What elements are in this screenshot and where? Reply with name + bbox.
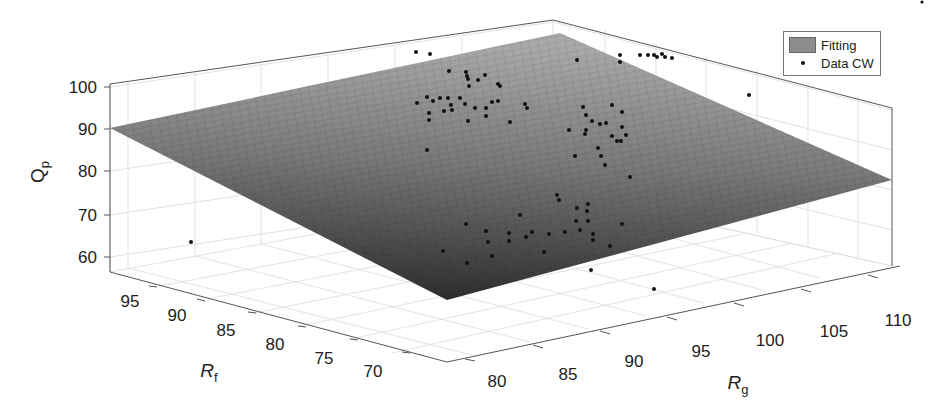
rg-tick-110: 110 bbox=[884, 311, 911, 330]
legend: Fitting Data CW bbox=[783, 31, 881, 76]
rf-tick-95: 95 bbox=[121, 292, 140, 311]
rf-tick-90: 90 bbox=[168, 306, 187, 325]
svg-text:Qp: Qp bbox=[27, 161, 52, 183]
z-tick-60: 60 bbox=[78, 248, 97, 267]
rg-tick-85: 85 bbox=[559, 365, 578, 384]
z-tick-90: 90 bbox=[78, 120, 97, 139]
surface-swatch-icon bbox=[789, 37, 816, 53]
legend-item-fitting: Fitting bbox=[789, 37, 856, 53]
rf-tick-85: 85 bbox=[217, 321, 236, 340]
fitting-surface bbox=[110, 33, 892, 300]
z-axis: 100 90 80 70 60 Qp bbox=[27, 78, 110, 267]
z-tick-80: 80 bbox=[78, 162, 97, 181]
rf-tick-80: 80 bbox=[266, 335, 285, 354]
rg-tick-105: 105 bbox=[820, 322, 848, 341]
legend-item-data: Data CW bbox=[789, 55, 874, 71]
rg-tick-90: 90 bbox=[625, 352, 644, 371]
z-tick-100: 100 bbox=[69, 78, 97, 97]
rf-tick-75: 75 bbox=[315, 349, 334, 368]
rg-tick-100: 100 bbox=[756, 331, 784, 350]
z-tick-70: 70 bbox=[78, 206, 97, 225]
rg-tick-80: 80 bbox=[488, 372, 507, 391]
legend-label-fitting: Fitting bbox=[821, 38, 856, 53]
rf-tick-70: 70 bbox=[364, 362, 383, 381]
z-axis-label: Qp bbox=[27, 161, 52, 183]
chart-figure: 100 90 80 70 60 Qp 95 90 85 80 75 70 Rf bbox=[0, 0, 940, 419]
rg-axis-label: Rg bbox=[728, 372, 749, 397]
stray-data-point bbox=[920, 0, 923, 3]
rg-axis: 80 85 90 95 100 105 110 Rg bbox=[465, 275, 912, 397]
rg-tick-95: 95 bbox=[692, 342, 711, 361]
rf-axis-label: Rf bbox=[200, 360, 218, 385]
marker-dot-icon bbox=[789, 55, 816, 71]
legend-label-data: Data CW bbox=[821, 56, 874, 71]
